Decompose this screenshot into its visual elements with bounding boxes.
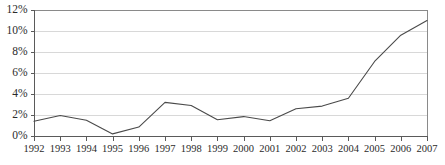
y-axis-label: 6% [12,66,28,78]
y-axis-label: 12% [6,3,28,15]
x-axis-label: 1992 [24,143,45,154]
x-axis-label: 1996 [128,143,149,154]
x-axis-label: 2004 [338,143,360,154]
series-line [34,21,427,134]
y-axis-label: 2% [12,108,28,120]
x-axis-label: 1997 [155,143,176,154]
y-axis-label: 10% [6,24,28,36]
x-axis-label: 1999 [207,143,228,154]
x-axis-label: 2005 [364,143,385,154]
y-axis-label: 4% [12,87,28,99]
x-axis-label: 2003 [312,143,333,154]
y-axis-tick-marks [31,11,35,137]
chart-canvas: 0%2%4%6%8%10%12% 19921993199419951996199… [0,0,445,165]
x-axis-label: 2007 [417,143,438,154]
y-axis-tick-labels: 0%2%4%6%8%10%12% [6,3,28,141]
y-axis-label: 0% [12,129,28,141]
y-axis-label: 8% [12,45,28,57]
data-series [34,21,427,134]
x-axis-label: 2006 [390,143,411,154]
x-axis-label: 1993 [50,143,71,154]
x-axis-tick-marks [35,137,428,141]
x-axis-tick-labels: 1992199319941995199619971998199920002001… [24,143,438,154]
x-axis-label: 2002 [286,143,307,154]
x-axis-label: 1994 [76,143,98,154]
line-chart: 0%2%4%6%8%10%12% 19921993199419951996199… [0,0,445,165]
x-axis-label: 2000 [233,143,254,154]
x-axis-label: 2001 [259,143,280,154]
x-axis-label: 1998 [181,143,202,154]
x-axis-label: 1995 [102,143,123,154]
